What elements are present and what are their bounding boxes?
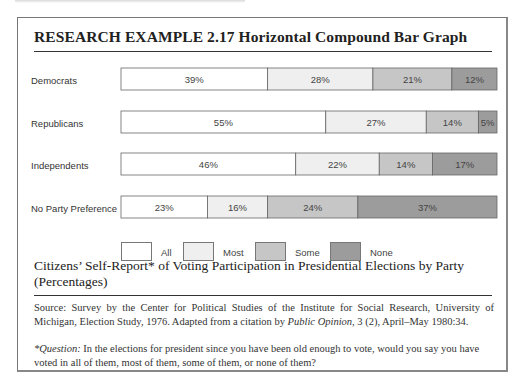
- data-label: 14%: [396, 159, 416, 170]
- data-label: 27%: [367, 117, 387, 128]
- question-note: *Question: In the elections for presiden…: [34, 342, 494, 370]
- data-label: 39%: [185, 74, 205, 85]
- data-label: 21%: [403, 74, 423, 85]
- data-label: 14%: [443, 117, 463, 128]
- question-label: *Question:: [34, 343, 81, 354]
- data-label: 5%: [481, 117, 495, 128]
- data-label: 28%: [311, 74, 331, 85]
- legend-label: Some: [295, 247, 320, 258]
- source-note: Source: Survey by the Center for Politic…: [34, 301, 494, 329]
- bar-row-independents: 46%22%14%17%: [121, 153, 497, 175]
- data-label: 55%: [214, 117, 234, 128]
- data-label: 37%: [418, 202, 438, 213]
- figure-panel: RESEARCH EXAMPLE 2.17 Horizontal Compoun…: [17, 17, 508, 372]
- data-label: 23%: [155, 202, 175, 213]
- data-label: 46%: [199, 159, 219, 170]
- data-label: 12%: [465, 74, 485, 85]
- data-label: 22%: [328, 159, 348, 170]
- cropped-previous-text: [15, 0, 245, 3]
- data-label: 24%: [303, 202, 323, 213]
- legend-label: Most: [223, 247, 244, 258]
- caption-divider: [34, 295, 492, 296]
- bar-row-republicans: 55%27%14%5%: [121, 111, 497, 133]
- data-label: 17%: [455, 159, 475, 170]
- source-publication: Public Opinion,: [288, 316, 355, 327]
- figure-caption: Citizens’ Self-Report* of Voting Partici…: [34, 258, 494, 290]
- data-label: 16%: [228, 202, 248, 213]
- bar-row-democrats: 39%28%21%12%: [121, 68, 497, 90]
- source-citation: 3 (2), April–May 1980:34.: [355, 316, 469, 327]
- question-text: In the elections for president since you…: [34, 343, 479, 368]
- bar-row-no-party-preference: 23%16%24%37%: [121, 196, 497, 218]
- compound-bar-chart: 39%28%21%12%55%27%14%5%46%22%14%17%23%16…: [18, 18, 509, 248]
- legend-label: None: [370, 247, 393, 258]
- legend-label: All: [161, 247, 172, 258]
